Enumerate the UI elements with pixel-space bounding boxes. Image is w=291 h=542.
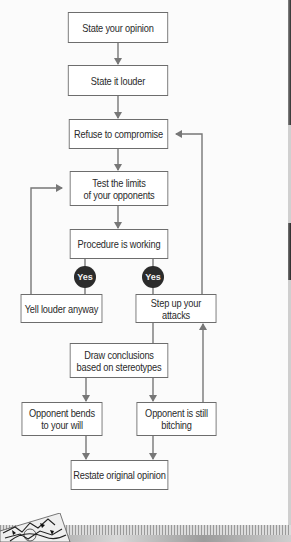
node-label: State your opinion	[82, 22, 153, 34]
decision-yes-right: Yes	[142, 266, 164, 288]
node-label: Step up your attacks	[136, 297, 215, 321]
decision-yes-left: Yes	[74, 266, 96, 288]
node-label: Refuse to compromise	[74, 128, 163, 140]
node-label: Yell louder anyway	[25, 303, 99, 315]
node-draw-conclusions: Draw conclusions based on stereotypes	[70, 343, 169, 378]
node-label: Restate original opinion	[73, 469, 165, 481]
node-refuse-compromise: Refuse to compromise	[69, 119, 168, 149]
node-opponent-bends: Opponent bends to your will	[22, 402, 103, 436]
node-procedure-working: Procedure is working	[70, 229, 169, 259]
node-step-up-attacks: Step up your attacks	[136, 294, 217, 323]
node-test-limits: Test the limits of your opponents	[70, 171, 169, 206]
node-label: Opponent is still bitching	[145, 407, 208, 431]
decorative-sketch-icon	[0, 513, 72, 542]
node-label: Opponent bends to your will	[29, 407, 95, 431]
node-restate-opinion: Restate original opinion	[71, 460, 169, 490]
page-edge-bar	[288, 280, 291, 525]
node-yell-louder: Yell louder anyway	[21, 294, 103, 323]
node-label: Draw conclusions based on stereotypes	[77, 349, 162, 373]
page-edge-bar	[288, 223, 291, 280]
node-opponent-bitching: Opponent is still bitching	[136, 402, 216, 436]
decision-label: Yes	[77, 272, 93, 282]
node-label: State it louder	[91, 75, 145, 87]
page-edge-bar	[288, 125, 291, 223]
node-label: Procedure is working	[78, 238, 161, 250]
node-state-louder: State it louder	[68, 65, 168, 96]
node-label: Test the limits of your opponents	[83, 177, 154, 201]
page-edge-bar	[288, 0, 291, 125]
node-state-opinion: State your opinion	[68, 12, 168, 43]
decision-label: Yes	[145, 272, 161, 282]
